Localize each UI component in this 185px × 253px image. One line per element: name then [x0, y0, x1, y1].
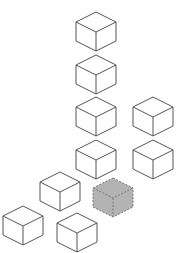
cube	[76, 55, 116, 94]
cube	[133, 140, 173, 179]
cube	[57, 213, 97, 252]
cube-diagram	[0, 0, 185, 253]
cube	[133, 97, 173, 136]
cube	[3, 206, 43, 245]
cube	[76, 140, 116, 179]
cube	[76, 97, 116, 136]
cube	[76, 12, 116, 51]
highlighted-cube	[93, 178, 133, 217]
cube-canvas	[0, 0, 185, 253]
cube	[40, 172, 80, 211]
